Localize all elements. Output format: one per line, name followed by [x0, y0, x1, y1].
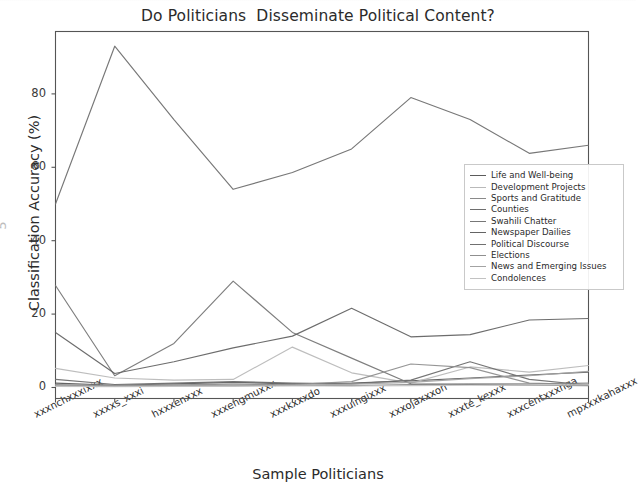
legend-item[interactable]: Counties: [470, 204, 619, 215]
series-line-5: [56, 308, 589, 373]
chart-legend: Life and Well-beingDevelopment ProjectsS…: [464, 164, 624, 290]
legend-item-label: Counties: [491, 204, 529, 215]
legend-line-swatch: [470, 198, 486, 199]
legend-line-swatch: [470, 266, 486, 267]
legend-item[interactable]: News and Emerging Issues: [470, 261, 619, 272]
legend-item-label: Life and Well-being: [491, 170, 573, 181]
legend-item-label: Development Projects: [491, 182, 585, 193]
series-line-3: [56, 362, 589, 385]
legend-item[interactable]: Development Projects: [470, 181, 619, 192]
legend-item-label: Elections: [491, 250, 530, 261]
legend-item-label: Swahili Chatter: [491, 216, 556, 227]
series-line-7: [56, 364, 589, 386]
legend-item-label: News and Emerging Issues: [491, 261, 607, 272]
legend-line-swatch: [470, 187, 486, 188]
legend-item[interactable]: Political Discourse: [470, 238, 619, 249]
legend-item[interactable]: Newspaper Dailies: [470, 227, 619, 238]
legend-line-swatch: [470, 255, 486, 256]
legend-line-swatch: [470, 209, 486, 210]
legend-line-swatch: [470, 278, 486, 279]
legend-line-swatch: [470, 244, 486, 245]
legend-item[interactable]: Elections: [470, 250, 619, 261]
legend-line-swatch: [470, 232, 486, 233]
legend-item-label: Sports and Gratitude: [491, 193, 581, 204]
legend-line-swatch: [470, 175, 486, 176]
legend-line-swatch: [470, 221, 486, 222]
legend-item[interactable]: Swahili Chatter: [470, 216, 619, 227]
legend-item-label: Newspaper Dailies: [491, 227, 571, 238]
legend-item-label: Political Discourse: [491, 239, 569, 250]
legend-item[interactable]: Condolences: [470, 273, 619, 284]
legend-item-label: Condolences: [491, 273, 546, 284]
legend-item[interactable]: Life and Well-being: [470, 170, 619, 181]
legend-item[interactable]: Sports and Gratitude: [470, 193, 619, 204]
